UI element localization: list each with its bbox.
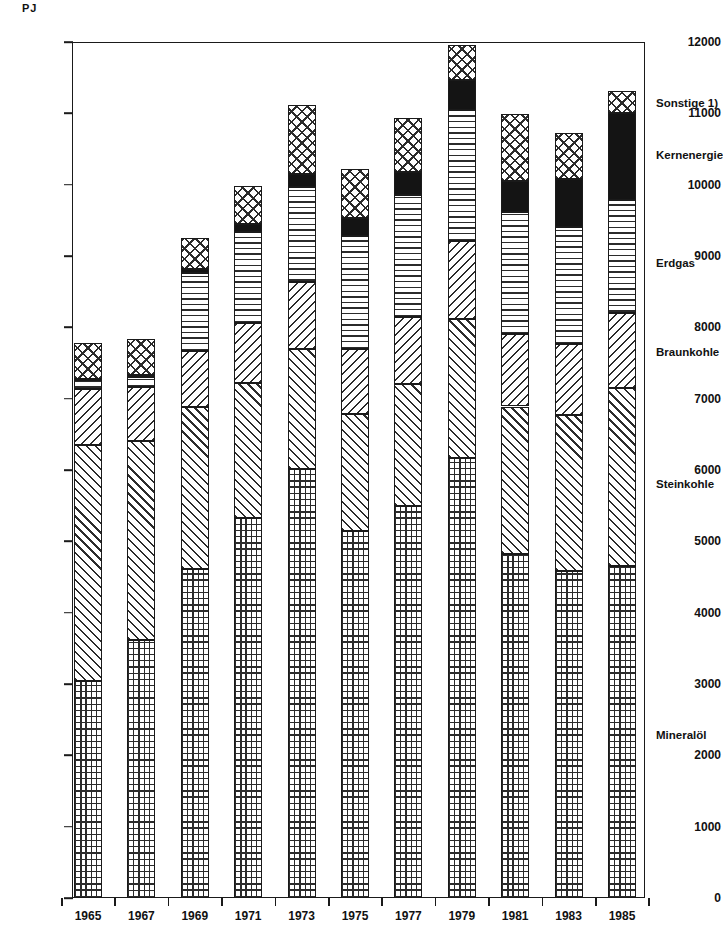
- bar-segment-braunkohle: [74, 389, 102, 445]
- bar-segment-mineralöl: [501, 554, 529, 898]
- bar-1975: [341, 42, 369, 898]
- y-axis-tick-mark: [64, 41, 73, 43]
- x-axis-tick-label: 1973: [288, 909, 315, 923]
- bar-segment-kernenergie: [448, 80, 476, 110]
- x-axis-tick-label: 1979: [448, 909, 475, 923]
- x-axis-tick-mark: [61, 898, 63, 906]
- x-axis-tick-label: 1969: [181, 909, 208, 923]
- y-axis-tick-label: 3000: [661, 677, 721, 691]
- x-axis-tick-label: 1985: [609, 909, 636, 923]
- bar-segment-mineralöl: [555, 571, 583, 898]
- bar-segment-steinkohle: [181, 407, 209, 569]
- bar-segment-kernenergie: [555, 179, 583, 227]
- bar-segment-braunkohle: [341, 349, 369, 413]
- bar-segment-steinkohle: [394, 384, 422, 505]
- x-axis-tick-mark: [168, 898, 170, 906]
- bar-segment-kernenergie: [181, 269, 209, 273]
- y-axis-tick-mark: [64, 327, 73, 329]
- y-axis-tick-mark: [64, 113, 73, 115]
- y-axis-unit-label: PJ: [22, 2, 37, 14]
- bar-segment-kernenergie: [341, 218, 369, 236]
- x-axis-tick-mark: [648, 898, 650, 906]
- x-axis-tick-label: 1965: [75, 909, 102, 923]
- y-axis-tick-label: 1000: [661, 820, 721, 834]
- bar-segment-steinkohle: [555, 415, 583, 571]
- bar-segment-sonstige: [74, 343, 102, 379]
- bar-segment-mineralöl: [74, 681, 102, 898]
- bar-segment-erdgas: [181, 273, 209, 351]
- bar-segment-kernenergie: [608, 113, 636, 200]
- bar-segment-mineralöl: [181, 569, 209, 898]
- x-axis-tick-mark: [595, 898, 597, 906]
- y-axis-tick-mark: [64, 398, 73, 400]
- bar-1985: [608, 42, 636, 898]
- bar-segment-braunkohle: [181, 351, 209, 407]
- legend-item-kernenergie: Kernenergie: [656, 149, 723, 161]
- bar-segment-erdgas: [234, 232, 262, 323]
- y-axis-tick-mark: [64, 612, 73, 614]
- bar-segment-braunkohle: [555, 344, 583, 415]
- bar-segment-kernenergie: [74, 379, 102, 381]
- bar-segment-erdgas: [608, 200, 636, 313]
- y-axis-tick-mark: [64, 897, 73, 899]
- y-axis-tick-label: 2000: [661, 748, 721, 762]
- bar-1967: [127, 42, 155, 898]
- bar-segment-steinkohle: [288, 349, 316, 469]
- bar-segment-steinkohle: [448, 319, 476, 458]
- bar-segment-steinkohle: [127, 441, 155, 640]
- bar-segment-mineralöl: [394, 506, 422, 898]
- bar-segment-sonstige: [181, 238, 209, 269]
- x-axis-tick-mark: [435, 898, 437, 906]
- x-axis-tick-mark: [381, 898, 383, 906]
- bar-segment-braunkohle: [448, 241, 476, 319]
- bar-segment-sonstige: [394, 118, 422, 172]
- x-axis-tick-label: 1971: [235, 909, 262, 923]
- x-axis-tick-label: 1977: [395, 909, 422, 923]
- bar-segment-erdgas: [127, 377, 155, 386]
- bar-segment-braunkohle: [288, 282, 316, 348]
- bar-1977: [394, 42, 422, 898]
- bar-segment-sonstige: [555, 133, 583, 179]
- x-axis-tick-mark: [328, 898, 330, 906]
- bar-1973: [288, 42, 316, 898]
- y-axis-tick-label: 5000: [661, 534, 721, 548]
- bar-1979: [448, 42, 476, 898]
- x-axis-tick-mark: [221, 898, 223, 906]
- bar-segment-kernenergie: [234, 224, 262, 233]
- bar-segment-erdgas: [448, 110, 476, 241]
- bar-segment-steinkohle: [341, 414, 369, 531]
- bar-segment-mineralöl: [127, 640, 155, 898]
- y-axis-tick-mark: [64, 683, 73, 685]
- y-axis-tick-label: 4000: [661, 606, 721, 620]
- bar-segment-sonstige: [501, 114, 529, 181]
- y-axis-tick-mark: [64, 755, 73, 757]
- bar-segment-steinkohle: [501, 407, 529, 555]
- bar-segment-mineralöl: [448, 458, 476, 898]
- bar-segment-braunkohle: [234, 323, 262, 383]
- bar-segment-braunkohle: [608, 313, 636, 388]
- x-axis-tick-label: 1983: [555, 909, 582, 923]
- x-axis-tick-label: 1981: [502, 909, 529, 923]
- bar-segment-mineralöl: [288, 469, 316, 898]
- bar-segment-steinkohle: [608, 388, 636, 566]
- y-axis-tick-mark: [64, 184, 73, 186]
- y-axis-tick-mark: [64, 469, 73, 471]
- x-axis-tick-mark: [542, 898, 544, 906]
- bar-segment-erdgas: [394, 195, 422, 316]
- bar-1981: [501, 42, 529, 898]
- legend-item-erdgas: Erdgas: [656, 257, 695, 269]
- y-axis-tick-mark: [64, 255, 73, 257]
- bar-1971: [234, 42, 262, 898]
- bar-1969: [181, 42, 209, 898]
- y-axis-tick-label: 12000: [661, 35, 721, 49]
- y-axis-tick-label: 8000: [661, 320, 721, 334]
- y-axis-tick-mark: [64, 541, 73, 543]
- x-axis-tick-mark: [488, 898, 490, 906]
- x-axis-tick-label: 1975: [342, 909, 369, 923]
- bar-segment-erdgas: [555, 227, 583, 344]
- bar-segment-sonstige: [341, 169, 369, 218]
- x-axis-tick-mark: [114, 898, 116, 906]
- x-axis-tick-label: 1967: [128, 909, 155, 923]
- bar-segment-erdgas: [501, 212, 529, 335]
